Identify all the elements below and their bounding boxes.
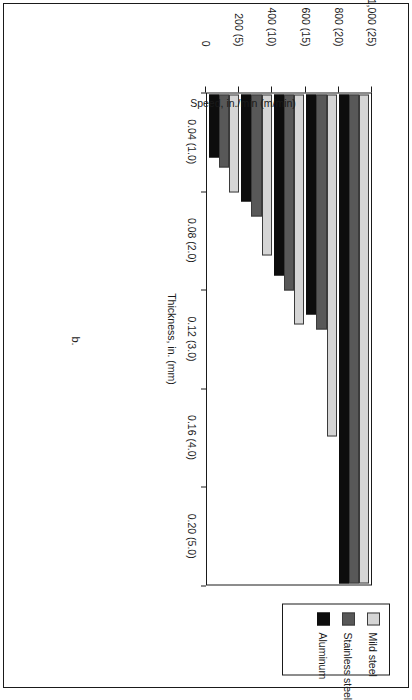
bar <box>241 94 251 202</box>
legend-swatch-icon <box>367 612 380 625</box>
x-axis-tick-label: 0.12 (3.0) <box>186 316 198 361</box>
figure-caption: b. <box>70 336 82 345</box>
legend-swatch-icon <box>342 612 355 625</box>
bar <box>294 94 304 324</box>
y-axis-tick-label: 800 (20) <box>333 7 345 46</box>
legend-swatch-icon <box>317 612 330 625</box>
bar <box>306 94 316 314</box>
x-axis-tick-label: 0.04 (1.0) <box>186 119 198 164</box>
x-axis-title: Thickness, in. (mm) <box>166 92 178 585</box>
x-axis-tick <box>201 486 206 487</box>
y-axis-tick-label: 0 <box>200 40 212 46</box>
legend-item-label: Aluminum <box>318 632 330 679</box>
bar <box>317 94 327 329</box>
bar-group <box>339 94 370 584</box>
x-axis-tick <box>201 388 206 389</box>
legend-item: Stainless steel <box>342 612 355 666</box>
bar-series-container <box>208 94 371 584</box>
y-axis-tick <box>371 86 372 92</box>
bar-group <box>306 94 337 584</box>
y-axis-tick-label: 400 (10) <box>266 7 278 46</box>
bar <box>262 94 272 256</box>
bar <box>274 94 284 275</box>
y-axis-tick <box>238 86 239 92</box>
x-axis-tick <box>201 191 206 192</box>
y-axis-tick-label: 600 (15) <box>300 7 312 46</box>
chart-legend: Mild steelStainless steelAluminum <box>282 603 390 675</box>
legend-item: Mild steel <box>367 612 380 666</box>
y-axis-tick-label: 200 (5) <box>233 13 245 46</box>
y-axis-tick <box>305 86 306 92</box>
bar-group <box>274 94 305 584</box>
bar <box>359 94 369 584</box>
bar <box>349 94 359 584</box>
x-axis-tick-label: 0.08 (2.0) <box>186 217 198 262</box>
y-axis-tick <box>338 86 339 92</box>
x-axis-tick <box>201 289 206 290</box>
bar <box>327 94 337 437</box>
y-axis-tick-label: 1,000 (25) <box>366 0 378 46</box>
bar <box>251 94 261 216</box>
y-axis-tick <box>205 86 206 92</box>
x-axis-tick-label: 0.20 (5.0) <box>186 513 198 558</box>
bar <box>339 94 349 584</box>
bar-group <box>209 94 240 584</box>
y-axis: Speed, in./min (m/min) 0200 (5)400 (10)6… <box>206 50 372 92</box>
legend-item: Aluminum <box>317 612 330 666</box>
x-axis-tick-label: 0.16 (4.0) <box>186 415 198 460</box>
x-axis-tick <box>201 585 206 586</box>
y-axis-tick <box>271 86 272 92</box>
y-axis-title: Speed, in./min (m/min) <box>123 96 363 108</box>
bar <box>284 94 294 290</box>
legend-item-label: Stainless steel <box>343 632 355 700</box>
legend-item-label: Mild steel <box>368 632 380 676</box>
bar-group <box>241 94 272 584</box>
